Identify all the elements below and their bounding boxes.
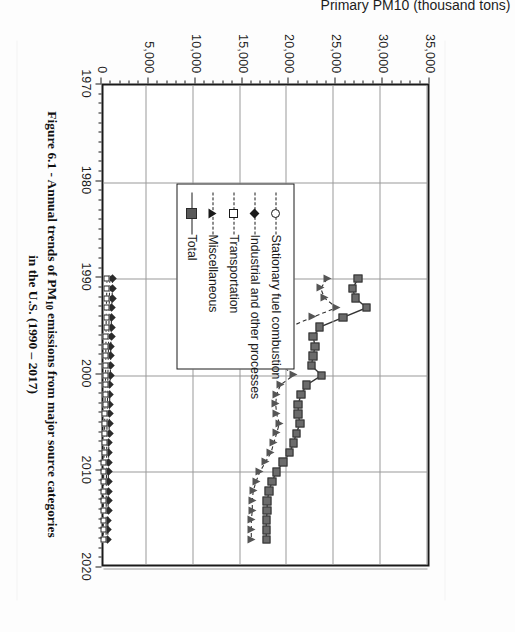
- x-axis-major-tick: [95, 373, 101, 374]
- gridline-horizontal: [145, 85, 146, 564]
- y-axis-minor-tick: [222, 80, 223, 83]
- x-axis-tick-label: 2010: [78, 455, 92, 484]
- x-axis-tick-label: 1970: [78, 69, 92, 98]
- gridline-vertical: [103, 568, 427, 569]
- y-axis-tick-label: 20,000: [281, 0, 295, 73]
- caption-text-a: Figure 6.1 - Annual trends of PM: [44, 111, 59, 300]
- data-point-total: [272, 467, 281, 476]
- data-point-total: [307, 361, 316, 370]
- y-axis-minor-tick: [166, 80, 167, 83]
- data-point-miscellaneous: [320, 293, 328, 301]
- data-point-total: [262, 525, 271, 534]
- x-axis-minor-tick: [98, 382, 101, 383]
- y-axis-minor-tick: [138, 80, 139, 83]
- y-axis-tick-label: 35,000: [422, 0, 436, 73]
- data-point-total: [263, 496, 272, 505]
- y-axis-minor-tick: [344, 80, 345, 83]
- y-axis-tick-label: 25,000: [328, 0, 342, 73]
- legend-item-miscellaneous: Miscellaneous: [202, 192, 223, 360]
- gridline-vertical: [103, 471, 427, 472]
- x-axis-major-tick: [95, 566, 101, 567]
- x-axis-minor-tick: [98, 228, 101, 229]
- x-axis-minor-tick: [98, 151, 101, 152]
- y-axis-minor-tick: [184, 80, 185, 83]
- caption-line-2: in the U.S. (1990 – 2017): [25, 255, 40, 394]
- data-point-miscellaneous: [272, 428, 280, 436]
- y-axis-minor-tick: [391, 80, 392, 83]
- x-axis-tick-label: 1990: [78, 262, 92, 291]
- data-point-miscellaneous: [289, 370, 297, 378]
- x-axis-minor-tick: [98, 286, 101, 287]
- x-axis-minor-tick: [98, 460, 101, 461]
- x-axis-minor-tick: [98, 189, 101, 190]
- data-point-transportation: [101, 420, 107, 426]
- legend-key-open-circle-icon: [269, 192, 283, 234]
- legend-key-open-square-icon: [227, 192, 241, 234]
- data-point-total: [295, 419, 304, 428]
- y-axis-minor-tick: [203, 80, 204, 83]
- x-axis-minor-tick: [98, 402, 101, 403]
- x-axis-minor-tick: [98, 112, 101, 113]
- x-axis-minor-tick: [98, 527, 101, 528]
- data-point-total: [315, 322, 324, 331]
- y-axis-minor-tick: [231, 80, 232, 83]
- data-point-miscellaneous: [276, 380, 284, 388]
- y-axis-tick-label: 10,000: [188, 0, 202, 73]
- y-axis-minor-tick: [259, 80, 260, 83]
- legend-key-filled-square-icon: [185, 192, 199, 234]
- legend-label: Industrial and other processes: [248, 234, 262, 399]
- data-point-total: [348, 284, 357, 293]
- x-axis-major-tick: [95, 276, 101, 277]
- x-axis-tick-label: 1980: [78, 165, 92, 194]
- data-point-miscellaneous: [332, 303, 340, 311]
- y-axis-major-tick: [147, 77, 148, 83]
- caption-subscript: 10: [43, 300, 53, 310]
- y-axis-minor-tick: [175, 80, 176, 83]
- data-point-transportation: [101, 410, 107, 416]
- y-axis-tick-label: 5,000: [141, 0, 155, 73]
- data-point-miscellaneous: [247, 515, 255, 523]
- x-axis-major-tick: [95, 180, 101, 181]
- x-axis-major-tick: [95, 469, 101, 470]
- x-axis-minor-tick: [98, 518, 101, 519]
- y-axis-minor-tick: [419, 80, 420, 83]
- legend-item-transportation: Transportation: [223, 192, 244, 360]
- x-axis-minor-tick: [98, 353, 101, 354]
- gridline-horizontal: [426, 85, 427, 564]
- x-axis-minor-tick: [98, 334, 101, 335]
- data-point-transportation: [102, 352, 108, 358]
- y-axis-minor-tick: [109, 80, 110, 83]
- data-point-total: [292, 429, 301, 438]
- x-axis-minor-tick: [98, 102, 101, 103]
- y-axis-minor-tick: [316, 80, 317, 83]
- data-point-miscellaneous: [249, 486, 257, 494]
- data-point-miscellaneous: [247, 535, 255, 543]
- x-axis-minor-tick: [98, 440, 101, 441]
- data-point-total: [353, 274, 362, 283]
- x-axis-minor-tick: [98, 537, 101, 538]
- x-axis-minor-tick: [98, 344, 101, 345]
- x-axis-minor-tick: [98, 93, 101, 94]
- x-axis-minor-tick: [98, 325, 101, 326]
- data-point-total: [351, 293, 360, 302]
- data-point-miscellaneous: [272, 390, 280, 398]
- x-axis-minor-tick: [98, 411, 101, 412]
- x-axis-minor-tick: [98, 363, 101, 364]
- data-point-transportation: [102, 362, 108, 368]
- data-point-miscellaneous: [248, 506, 256, 514]
- data-point-total: [308, 351, 317, 360]
- y-axis-minor-tick: [362, 80, 363, 83]
- data-point-transportation: [101, 430, 107, 436]
- y-axis-title: Primary PM10 (thousand tons): [265, 0, 515, 12]
- y-axis-minor-tick: [250, 80, 251, 83]
- x-axis-minor-tick: [98, 489, 101, 490]
- data-point-total: [262, 535, 271, 544]
- x-axis-minor-tick: [98, 431, 101, 432]
- data-point-transportation: [102, 381, 108, 387]
- data-point-transportation: [101, 439, 107, 445]
- data-point-transportation: [103, 324, 109, 330]
- y-axis-minor-tick: [156, 80, 157, 83]
- data-point-miscellaneous: [261, 457, 269, 465]
- legend-item-total: Total: [181, 192, 202, 360]
